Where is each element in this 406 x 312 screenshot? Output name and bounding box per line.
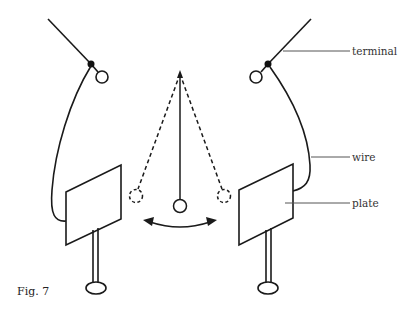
- right-swing-string: [180, 74, 222, 189]
- right-terminal-rod: [268, 19, 311, 64]
- terminal-label: terminal: [352, 45, 398, 57]
- right-terminal-dot: [265, 61, 272, 68]
- plate-label: plate: [352, 197, 379, 209]
- left-terminal-ball: [96, 71, 108, 83]
- right-swing-bob: [218, 190, 231, 203]
- swing-arc: [150, 222, 210, 227]
- left-assembly: [48, 19, 121, 294]
- pendulum-bob: [174, 200, 187, 213]
- left-stand-base: [86, 282, 106, 294]
- figure-label: Fig. 7: [17, 285, 49, 298]
- left-terminal-rod: [48, 19, 91, 64]
- diagram-canvas: terminal wire plate Fig. 7: [0, 0, 406, 312]
- right-stand-base: [258, 282, 278, 294]
- left-swing-string: [138, 74, 180, 189]
- swing-arrow-right-icon: [206, 217, 217, 226]
- right-assembly: [239, 19, 311, 294]
- wire-label: wire: [352, 151, 376, 163]
- swing-arrow-left-icon: [143, 217, 154, 226]
- right-terminal-ball: [250, 71, 262, 83]
- pendulum: [130, 70, 231, 227]
- left-swing-bob: [130, 190, 143, 203]
